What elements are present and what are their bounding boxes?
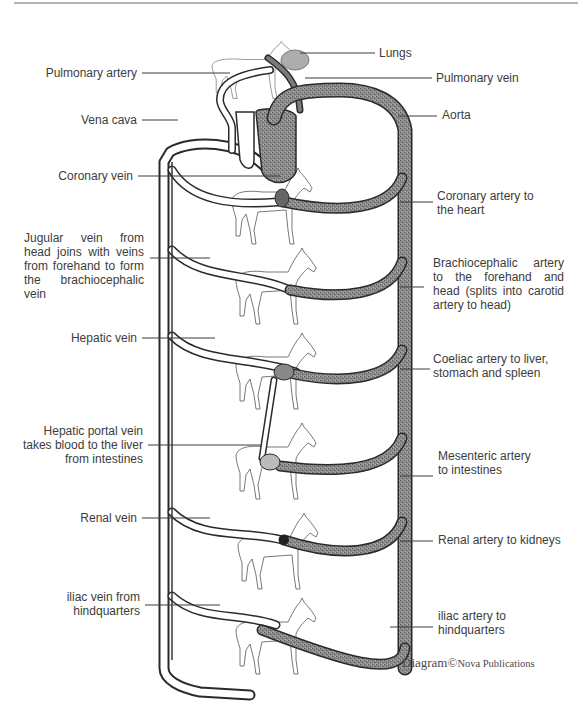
- label-hepatic-portal-vein: Hepatic portal vein takes blood to the l…: [23, 424, 143, 466]
- label-brachiocephalic-artery: Brachiocephalic artery to the forehand a…: [433, 256, 564, 312]
- label-iliac-artery-line2: hindquarters: [438, 623, 506, 637]
- label-iliac-vein-line2: hindquarters: [67, 604, 140, 618]
- label-coronary-vein: Coronary vein: [58, 169, 133, 183]
- heart: [236, 109, 296, 183]
- copyright-symbol: ©: [447, 655, 457, 670]
- label-jugular-vein: Jugular vein from head joins with veins …: [24, 231, 144, 301]
- label-iliac-artery: iliac artery to hindquarters: [438, 609, 506, 637]
- label-pulmonary-artery: Pulmonary artery: [46, 66, 137, 80]
- label-mesenteric-artery: Mesenteric artery to intestines: [438, 449, 531, 477]
- credit-publisher: Nova Publications: [457, 658, 534, 669]
- liver-blob: [274, 364, 294, 380]
- label-hepatic-portal-line3: from intestines: [23, 452, 143, 466]
- label-coeliac-artery: Coeliac artery to liver, stomach and spl…: [433, 352, 548, 380]
- label-coeliac-artery-line2: stomach and spleen: [433, 366, 548, 380]
- label-hepatic-portal-line1: Hepatic portal vein: [23, 424, 143, 438]
- label-coronary-artery-line2: the heart: [437, 203, 534, 217]
- label-iliac-vein-line1: iliac vein from: [67, 590, 140, 604]
- label-coeliac-artery-line1: Coeliac artery to liver,: [433, 352, 548, 366]
- coronary-heart-blob: [275, 189, 289, 207]
- label-mesenteric-artery-line2: to intestines: [438, 463, 531, 477]
- label-lungs: Lungs: [379, 46, 412, 60]
- label-coronary-artery: Coronary artery to the heart: [437, 189, 534, 217]
- label-iliac-vein: iliac vein from hindquarters: [67, 590, 140, 618]
- label-iliac-artery-line1: iliac artery to: [438, 609, 506, 623]
- label-mesenteric-artery-line1: Mesenteric artery: [438, 449, 531, 463]
- label-renal-artery: Renal artery to kidneys: [438, 533, 561, 547]
- label-coronary-artery-line1: Coronary artery to: [437, 189, 534, 203]
- label-hepatic-portal-line2: takes blood to the liver: [23, 438, 143, 452]
- credit-prefix: Diagram: [402, 655, 447, 670]
- label-renal-vein: Renal vein: [80, 511, 137, 525]
- copyright-credit: Diagram©Nova Publications: [402, 653, 535, 671]
- kidney-blob: [279, 535, 289, 545]
- label-aorta: Aorta: [442, 108, 471, 122]
- label-hepatic-vein: Hepatic vein: [71, 331, 137, 345]
- label-vena-cava: Vena cava: [81, 113, 137, 127]
- label-pulmonary-vein: Pulmonary vein: [436, 71, 519, 85]
- intestines-blob: [260, 454, 280, 470]
